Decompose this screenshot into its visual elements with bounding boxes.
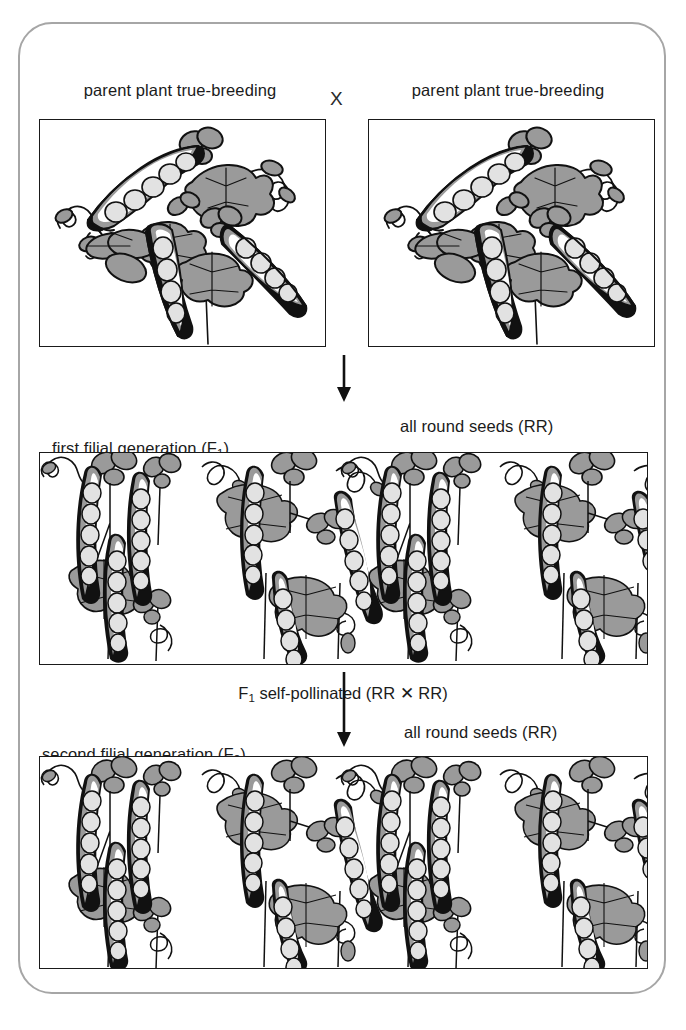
f1-illustration-panel bbox=[39, 452, 648, 665]
f2-result-label: all round seeds (RR) bbox=[404, 722, 654, 744]
parent-right-caption-line1: parent plant true-breeding bbox=[412, 81, 604, 99]
f1-cluster-1 bbox=[40, 453, 183, 663]
parent-left-illustration-panel bbox=[39, 119, 326, 347]
f2-pea-population-drawing bbox=[40, 757, 648, 969]
f1-cluster-2 bbox=[202, 453, 388, 665]
f1-pea-population-drawing bbox=[40, 453, 648, 665]
f1-result-label: all round seeds (RR) bbox=[400, 416, 650, 438]
cross-symbol: X bbox=[330, 88, 343, 110]
f2-cluster-4 bbox=[500, 757, 648, 969]
arrow-parents-to-f1 bbox=[333, 355, 355, 403]
f2-cluster-2 bbox=[202, 757, 388, 969]
f2-illustration-panel bbox=[39, 756, 648, 969]
self-pollination-subscript: 1 bbox=[248, 692, 254, 704]
pea-plant-drawing-left bbox=[40, 120, 326, 347]
f2-cluster-1 bbox=[40, 757, 183, 969]
pea-plant-drawing-right bbox=[369, 120, 655, 347]
f1-cluster-4 bbox=[500, 453, 648, 665]
self-pollination-prefix: F bbox=[238, 684, 248, 702]
parent-left-caption-line1: parent plant true-breeding bbox=[84, 81, 276, 99]
parent-right-illustration-panel bbox=[368, 119, 655, 347]
